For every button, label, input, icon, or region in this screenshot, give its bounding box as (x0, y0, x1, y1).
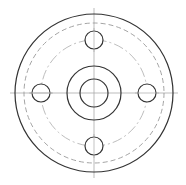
flange-drawing (0, 0, 186, 185)
